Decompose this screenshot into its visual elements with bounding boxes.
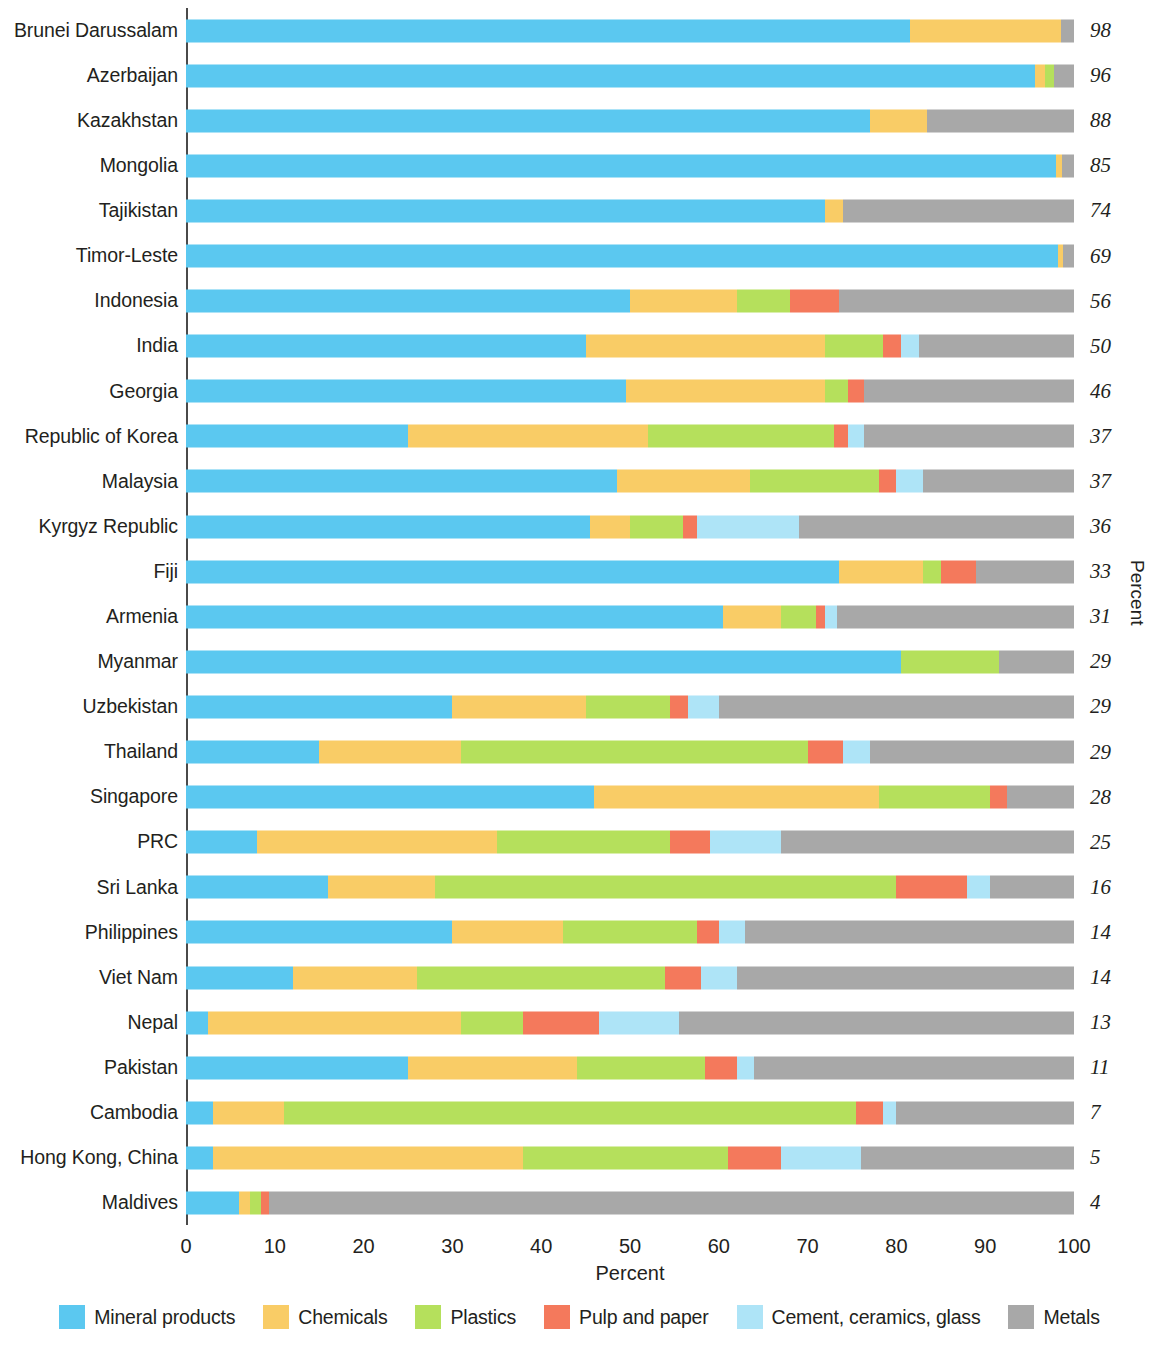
bar-row-value: 28 — [1090, 787, 1111, 808]
bar-segment-chemicals — [626, 380, 826, 403]
legend-label: Cement, ceramics, glass — [772, 1306, 981, 1329]
bar-row-label: Timor-Leste — [0, 246, 178, 266]
bar-track — [186, 470, 1074, 493]
legend-item[interactable]: Cement, ceramics, glass — [737, 1305, 981, 1329]
x-axis: 0102030405060708090100 — [186, 1225, 1074, 1235]
bar-segment-mineral-products — [186, 695, 452, 718]
bar-row-label: Azerbaijan — [0, 66, 178, 86]
bar-segment-pulp-and-paper — [896, 876, 967, 899]
bar-segment-plastics — [901, 650, 999, 673]
bar-row-value: 33 — [1090, 561, 1111, 582]
bar-segment-pulp-and-paper — [665, 966, 701, 989]
bar-segment-mineral-products — [186, 425, 408, 448]
bar-segment-pulp-and-paper — [856, 1101, 883, 1124]
bar-segment-chemicals — [839, 560, 923, 583]
bar-row: Maldives4 — [0, 1180, 1159, 1225]
bar-segment-mineral-products — [186, 154, 1056, 177]
bar-segment-metals — [737, 966, 1074, 989]
bar-rows: Brunei Darussalam98Azerbaijan96Kazakhsta… — [0, 8, 1159, 1226]
bar-segment-cement-ceramics-glass — [599, 1011, 679, 1034]
legend-item[interactable]: Pulp and paper — [544, 1305, 708, 1329]
bar-segment-cement-ceramics-glass — [967, 876, 989, 899]
bar-track — [186, 19, 1074, 42]
bar-segment-pulp-and-paper — [816, 605, 825, 628]
legend-swatch-icon — [737, 1305, 763, 1329]
legend-item[interactable]: Metals — [1008, 1305, 1099, 1329]
bar-row: Viet Nam14 — [0, 955, 1159, 1000]
bar-row-label: Armenia — [0, 607, 178, 627]
bar-segment-pulp-and-paper — [790, 290, 839, 313]
bar-segment-pulp-and-paper — [848, 380, 864, 403]
bar-segment-cement-ceramics-glass — [825, 605, 837, 628]
bar-row-label: Cambodia — [0, 1103, 178, 1123]
bar-segment-plastics — [737, 290, 790, 313]
bar-track — [186, 1191, 1074, 1214]
bar-segment-plastics — [417, 966, 666, 989]
bar-segment-mineral-products — [186, 650, 901, 673]
bar-row-label: Uzbekistan — [0, 697, 178, 717]
bar-segment-pulp-and-paper — [728, 1146, 781, 1169]
bar-row-label: Thailand — [0, 742, 178, 762]
bar-row-label: Pakistan — [0, 1058, 178, 1078]
bar-track — [186, 199, 1074, 222]
bar-segment-plastics — [750, 470, 879, 493]
legend-item[interactable]: Chemicals — [263, 1305, 387, 1329]
bar-segment-plastics — [879, 786, 990, 809]
bar-row-value: 37 — [1090, 426, 1111, 447]
bar-segment-metals — [837, 605, 1074, 628]
legend-label: Metals — [1043, 1306, 1099, 1329]
bar-segment-mineral-products — [186, 1056, 408, 1079]
bar-row-label: Malaysia — [0, 472, 178, 492]
legend-item[interactable]: Mineral products — [59, 1305, 235, 1329]
bar-segment-metals — [1063, 245, 1074, 268]
bar-segment-plastics — [923, 560, 941, 583]
bar-track — [186, 966, 1074, 989]
bar-row-label: Tajikistan — [0, 201, 178, 221]
bar-segment-metals — [1007, 786, 1074, 809]
bar-row-value: 50 — [1090, 336, 1111, 357]
bar-row: Nepal13 — [0, 1000, 1159, 1045]
x-tick-label: 100 — [1057, 1235, 1090, 1258]
bar-segment-cement-ceramics-glass — [710, 831, 781, 854]
bar-row-label: Kazakhstan — [0, 111, 178, 131]
bar-segment-mineral-products — [186, 921, 452, 944]
y-axis-title-right: Percent — [1126, 560, 1148, 625]
bar-row-label: Viet Nam — [0, 968, 178, 988]
bar-track — [186, 831, 1074, 854]
bar-row-label: Kyrgyz Republic — [0, 517, 178, 537]
bar-segment-chemicals — [586, 335, 826, 358]
bar-segment-pulp-and-paper — [879, 470, 897, 493]
legend-label: Pulp and paper — [579, 1306, 708, 1329]
bar-row-value: 31 — [1090, 606, 1111, 627]
bar-row: Timor-Leste69 — [0, 233, 1159, 278]
bar-row-value: 56 — [1090, 291, 1111, 312]
bar-segment-mineral-products — [186, 19, 910, 42]
legend-label: Chemicals — [298, 1306, 387, 1329]
bar-row-label: PRC — [0, 832, 178, 852]
bar-segment-cement-ceramics-glass — [901, 335, 919, 358]
bar-track — [186, 154, 1074, 177]
x-axis-title: Percent — [186, 1262, 1074, 1285]
bar-row-value: 11 — [1090, 1057, 1109, 1078]
bar-segment-cement-ceramics-glass — [688, 695, 719, 718]
bar-row-label: Fiji — [0, 562, 178, 582]
bar-track — [186, 786, 1074, 809]
bar-segment-metals — [754, 1056, 1074, 1079]
bar-row-label: Philippines — [0, 923, 178, 943]
bar-segment-chemicals — [590, 515, 630, 538]
bar-track — [186, 109, 1074, 132]
bar-segment-chemicals — [328, 876, 435, 899]
legend-item[interactable]: Plastics — [415, 1305, 516, 1329]
legend-label: Plastics — [450, 1306, 516, 1329]
bar-segment-mineral-products — [186, 1191, 239, 1214]
bar-row-label: India — [0, 336, 178, 356]
bar-segment-chemicals — [293, 966, 417, 989]
x-tick-label: 80 — [885, 1235, 907, 1258]
bar-segment-plastics — [284, 1101, 857, 1124]
bar-segment-chemicals — [452, 695, 585, 718]
bar-segment-mineral-products — [186, 560, 839, 583]
legend-label: Mineral products — [94, 1306, 235, 1329]
bar-segment-metals — [976, 560, 1074, 583]
bar-row-value: 88 — [1090, 110, 1111, 131]
bar-track — [186, 425, 1074, 448]
